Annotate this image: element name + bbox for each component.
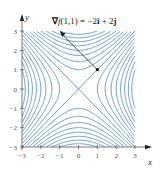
x-tick-label: 3 (133, 152, 137, 160)
gradient-annotation: ∇f(1,1) = −2i + 2j (51, 16, 117, 26)
x-axis-label: x (147, 157, 152, 167)
contour-line (41, 31, 116, 46)
x-tick-label: 0 (77, 152, 81, 160)
contour-line (22, 50, 36, 127)
y-tick-label: 1 (14, 66, 18, 74)
x-tick-label: 1 (96, 152, 100, 160)
x-tick-label: −3 (18, 152, 26, 160)
y-axis-label: y (24, 12, 29, 22)
x-tick-label: −1 (56, 152, 64, 160)
y-axis-arrowhead (20, 14, 24, 21)
contour-line (132, 70, 135, 109)
y-tick-label: −1 (10, 105, 18, 113)
contour-line (41, 132, 116, 147)
y-tick-label: −3 (10, 144, 18, 152)
y-tick-label: 2 (14, 47, 18, 55)
y-tick-label: −2 (10, 124, 18, 132)
point-1-1 (96, 68, 99, 71)
y-tick-label: 0 (14, 86, 18, 94)
contour-line (121, 50, 135, 127)
x-tick-label: −2 (37, 152, 45, 160)
y-tick-label: 3 (14, 28, 18, 36)
x-tick-label: 2 (114, 152, 118, 160)
contour-lines (22, 31, 135, 147)
contour-chart: −3−2−10123−3−2−10123 ∇f(1,1) = −2i + 2j … (0, 0, 164, 172)
x-axis-arrowhead (145, 145, 152, 149)
